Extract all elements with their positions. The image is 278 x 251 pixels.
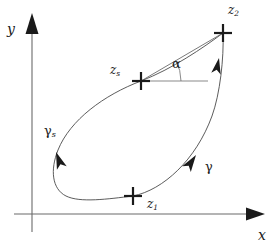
figure-canvas: y x z2 zs z1 α γ γs	[0, 0, 278, 251]
gamma-s-curve	[53, 33, 223, 200]
y-axis-label: y	[7, 22, 15, 36]
x-axis-arrowhead	[246, 208, 265, 221]
curve-label-gamma-s-subscript: s	[52, 130, 56, 139]
point-label-z2-subscript: 2	[234, 9, 239, 18]
y-axis-arrowhead	[26, 13, 39, 34]
point-label-z2: z2	[228, 4, 239, 16]
point-label-z1-subscript: 1	[153, 203, 158, 212]
angle-chord-line	[141, 33, 223, 81]
point-label-z1: z1	[147, 198, 158, 210]
point-label-zs: zs	[110, 64, 120, 76]
contour-curves-group	[53, 33, 223, 200]
diagram-svg	[0, 0, 278, 251]
marker-z2	[214, 24, 232, 42]
x-axis-label: x	[258, 228, 266, 242]
point-markers-group	[124, 24, 232, 205]
marker-z1	[124, 187, 142, 205]
angle-group	[141, 33, 223, 81]
angle-label-alpha: α	[172, 57, 181, 70]
curve-label-gamma-s-base: γ	[44, 123, 52, 138]
marker-zs	[132, 72, 150, 90]
curve-label-gamma-s: γs	[44, 124, 56, 137]
point-label-zs-subscript: s	[116, 69, 120, 78]
curve-label-gamma: γ	[205, 160, 213, 173]
